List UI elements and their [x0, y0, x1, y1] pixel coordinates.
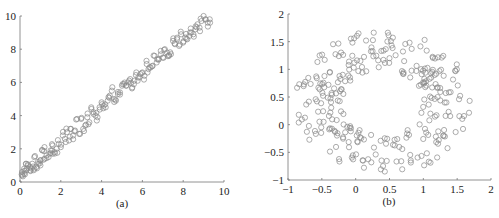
- data-point: [460, 126, 465, 131]
- data-point: [307, 137, 312, 142]
- data-point: [427, 118, 432, 123]
- data-point: [308, 81, 313, 86]
- data-point: [366, 157, 371, 162]
- data-point: [346, 59, 351, 64]
- y-tick-label: 0: [11, 176, 17, 188]
- chart-b-points: [295, 30, 473, 174]
- data-point: [400, 49, 405, 54]
- data-point: [419, 110, 424, 115]
- data-point: [433, 134, 438, 139]
- data-point: [426, 102, 431, 107]
- data-point: [428, 111, 433, 116]
- x-tick-label: 0.5: [383, 183, 397, 195]
- x-tick-label: 2: [488, 183, 494, 195]
- data-point: [336, 41, 341, 46]
- data-point: [296, 120, 301, 125]
- x-tick-label: 10: [219, 185, 231, 197]
- data-point: [408, 75, 413, 80]
- data-point: [330, 42, 335, 47]
- y-tick-label: 2: [279, 8, 285, 20]
- data-point: [418, 44, 423, 49]
- data-point: [445, 146, 450, 151]
- data-point: [314, 74, 319, 79]
- x-tick-label: −0.5: [312, 183, 332, 195]
- data-point: [341, 91, 346, 96]
- data-point: [306, 123, 311, 128]
- data-point: [341, 122, 346, 127]
- data-point: [373, 152, 378, 157]
- data-point: [424, 48, 429, 53]
- data-point: [319, 125, 324, 130]
- data-point: [369, 45, 374, 50]
- data-point: [337, 73, 342, 78]
- data-point: [318, 81, 323, 86]
- data-point: [353, 152, 358, 157]
- data-point: [435, 155, 440, 160]
- data-point: [361, 165, 366, 170]
- data-point: [417, 122, 422, 127]
- data-point: [319, 130, 324, 135]
- data-point: [358, 58, 363, 63]
- chart-a-caption: (a): [116, 197, 129, 210]
- data-point: [441, 73, 446, 78]
- data-point: [326, 113, 331, 118]
- x-tick-label: 2: [58, 185, 64, 197]
- data-point: [438, 67, 443, 72]
- data-point: [437, 69, 442, 74]
- data-point: [429, 95, 434, 100]
- data-point: [371, 145, 376, 150]
- data-point: [144, 61, 149, 66]
- x-tick-label: 4: [99, 185, 105, 197]
- data-point: [320, 90, 325, 95]
- data-point: [467, 98, 472, 103]
- data-point: [422, 37, 427, 42]
- x-tick-label: 8: [180, 185, 186, 197]
- data-point: [422, 97, 427, 102]
- y-tick-label: −0.5: [264, 146, 284, 158]
- data-point: [426, 159, 431, 164]
- y-tick-label: 0: [279, 119, 285, 131]
- data-point: [422, 126, 427, 131]
- data-point: [197, 29, 202, 34]
- data-point: [368, 132, 373, 137]
- y-tick-label: 8: [11, 43, 17, 55]
- data-point: [434, 113, 439, 118]
- data-point: [363, 38, 368, 43]
- chart-b: −1−0.500.511.52−1−0.500.511.52 (b): [264, 8, 494, 208]
- chart-b-caption: (b): [383, 195, 396, 208]
- data-point: [385, 39, 390, 44]
- data-point: [85, 111, 90, 116]
- data-point: [382, 169, 387, 174]
- y-tick-label: 2: [11, 143, 17, 155]
- data-point: [304, 129, 309, 134]
- data-point: [110, 85, 115, 90]
- x-tick-label: 0: [17, 185, 23, 197]
- data-point: [400, 167, 405, 172]
- data-point: [436, 129, 441, 134]
- x-tick-label: 1: [421, 183, 427, 195]
- y-tick-label: 4: [11, 110, 17, 122]
- data-point: [296, 112, 301, 117]
- data-point: [424, 151, 429, 156]
- data-point: [421, 104, 426, 109]
- data-point: [141, 77, 146, 82]
- data-point: [321, 109, 326, 114]
- y-tick-label: −1: [272, 174, 284, 186]
- y-tick-label: 1: [279, 63, 285, 75]
- data-point: [408, 152, 413, 157]
- data-point: [327, 149, 332, 154]
- y-tick-label: 6: [11, 76, 17, 88]
- data-point: [348, 129, 353, 134]
- x-tick-label: 6: [140, 185, 146, 197]
- data-point: [376, 65, 381, 70]
- figure: 02468100246810 (a) −1−0.500.511.52−1−0.5…: [0, 0, 499, 218]
- data-point: [455, 83, 460, 88]
- data-point: [392, 143, 397, 148]
- data-point: [333, 144, 338, 149]
- y-tick-label: 0.5: [270, 91, 284, 103]
- data-point: [351, 157, 356, 162]
- data-point: [322, 73, 327, 78]
- data-point: [55, 138, 60, 143]
- data-point: [63, 139, 68, 144]
- data-point: [315, 59, 320, 64]
